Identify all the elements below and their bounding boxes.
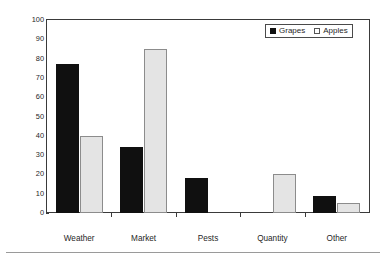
y-tick-label: 30 <box>14 151 44 158</box>
bar-market-grapes <box>120 147 143 213</box>
bar-other-apples <box>337 203 360 213</box>
y-tick-label: 90 <box>14 35 44 42</box>
legend-item-grapes: Grapes <box>270 27 305 35</box>
legend-label-apples: Apples <box>323 27 347 35</box>
bar-other-grapes <box>313 196 336 213</box>
x-tick-mark <box>240 213 241 217</box>
bar-quantity-apples <box>273 174 296 213</box>
y-tick-label: 20 <box>14 170 44 177</box>
bottom-divider <box>6 252 380 253</box>
y-tick-mark <box>46 213 49 214</box>
bar-weather-grapes <box>56 64 79 213</box>
y-tick-label: 80 <box>14 55 44 62</box>
x-tick-mark <box>111 213 112 217</box>
legend-item-apples: Apples <box>314 27 347 35</box>
bar-weather-apples <box>80 136 103 213</box>
bar-market-apples <box>144 49 167 213</box>
y-tick-label: 0 <box>14 209 44 216</box>
x-tick-mark <box>176 213 177 217</box>
bar-pests-grapes <box>185 178 208 213</box>
y-tick-label: 70 <box>14 74 44 81</box>
legend-label-grapes: Grapes <box>279 27 305 35</box>
y-tick-label: 60 <box>14 93 44 100</box>
y-tick-label: 100 <box>14 16 44 23</box>
y-tick-label: 50 <box>14 113 44 120</box>
y-tick-label: 10 <box>14 190 44 197</box>
chart-legend: Grapes Apples <box>265 24 353 38</box>
bar-chart-figure: Percent of respondents 01020304050607080… <box>0 0 386 260</box>
x-tick-mark <box>305 213 306 217</box>
legend-swatch-apples-icon <box>314 28 320 34</box>
x-axis-label-other: Other <box>297 234 377 243</box>
legend-swatch-grapes-icon <box>270 28 276 34</box>
bar-series-container <box>47 20 369 213</box>
y-tick-label: 40 <box>14 132 44 139</box>
